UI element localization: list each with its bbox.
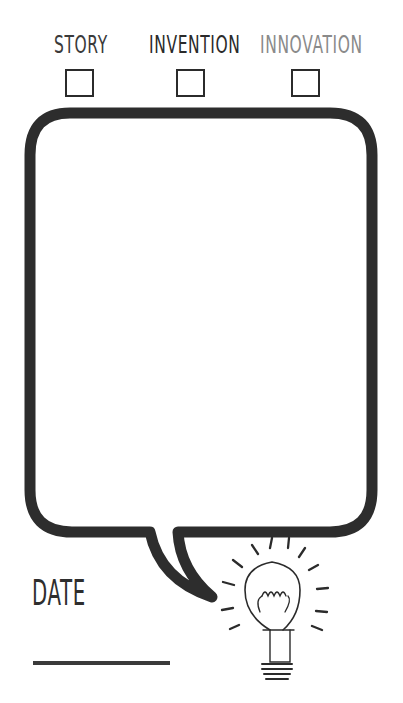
lightbulb-icon <box>0 0 403 703</box>
